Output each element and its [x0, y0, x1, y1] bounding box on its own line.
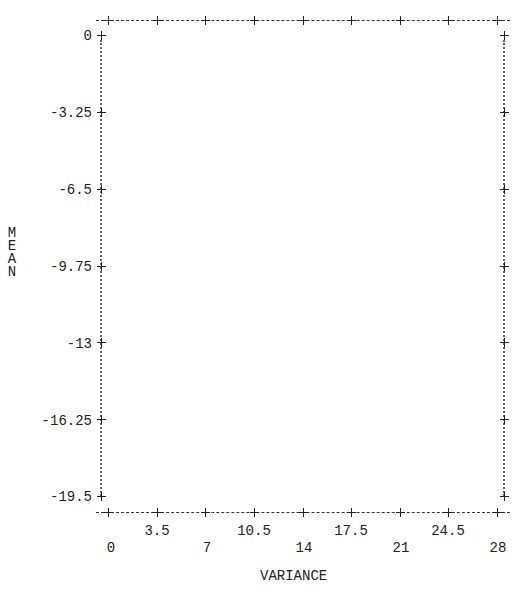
x-tick-mark	[104, 508, 113, 517]
x-tick-label: 14	[279, 541, 329, 555]
y-tick-mark	[97, 338, 106, 347]
y-tick-mark	[500, 415, 509, 424]
x-tick-mark	[347, 16, 356, 25]
y-tick-mark	[97, 108, 106, 117]
x-tick-mark	[493, 16, 502, 25]
y-axis-title-letter: N	[5, 266, 19, 279]
y-tick-mark	[500, 262, 509, 271]
x-tick-mark	[493, 508, 502, 517]
x-tick-mark	[153, 508, 162, 517]
y-tick-mark	[500, 31, 509, 40]
y-tick-label: 0	[0, 29, 92, 43]
y-tick-label: -13	[0, 337, 92, 351]
x-tick-label: 24.5	[423, 524, 473, 538]
x-tick-mark	[396, 508, 405, 517]
y-tick-mark	[97, 31, 106, 40]
y-tick-label: -19.5	[0, 490, 92, 504]
y-axis-title: M E A N	[5, 227, 19, 279]
x-tick-label: 7	[182, 541, 232, 555]
x-tick-mark	[299, 508, 308, 517]
y-tick-mark	[97, 262, 106, 271]
x-tick-mark	[347, 508, 356, 517]
y-tick-mark	[500, 185, 509, 194]
x-tick-mark	[299, 16, 308, 25]
x-tick-label: 3.5	[132, 524, 182, 538]
x-tick-mark	[444, 16, 453, 25]
x-tick-mark	[250, 508, 259, 517]
x-tick-mark	[201, 16, 210, 25]
y-tick-mark	[97, 415, 106, 424]
x-tick-label: 0	[86, 541, 136, 555]
y-tick-label: -3.25	[0, 106, 92, 120]
y-tick-mark	[97, 492, 106, 501]
y-tick-mark	[500, 492, 509, 501]
x-tick-mark	[153, 16, 162, 25]
x-tick-mark	[104, 16, 113, 25]
x-tick-mark	[250, 16, 259, 25]
x-tick-label: 21	[376, 541, 426, 555]
y-tick-mark	[97, 185, 106, 194]
y-tick-mark	[500, 108, 509, 117]
x-tick-mark	[201, 508, 210, 517]
x-tick-label: 17.5	[326, 524, 376, 538]
y-tick-label: -16.25	[0, 414, 92, 428]
x-axis-title: VARIANCE	[260, 569, 327, 583]
x-tick-label: 28	[473, 541, 519, 555]
x-tick-mark	[444, 508, 453, 517]
y-tick-mark	[500, 338, 509, 347]
x-tick-mark	[396, 16, 405, 25]
y-tick-label: -6.5	[0, 183, 92, 197]
x-tick-label: 10.5	[229, 524, 279, 538]
